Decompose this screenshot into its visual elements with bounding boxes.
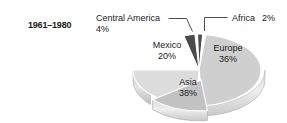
slice-label-asia-value: 38% (179, 88, 197, 98)
callout-label-africa-value: 2% (262, 13, 275, 23)
leader-line-africa (205, 18, 228, 32)
callout-label-central-america-value: 4% (96, 24, 109, 34)
chart-figure: 1961–1980 (0, 0, 287, 123)
slice-label-mexico-name: Mexico (153, 40, 182, 50)
leader-lines (169, 18, 228, 32)
callout-labels: Central America 4% Africa 2% (96, 13, 275, 34)
pie-chart: Mexico 20% Europe 36% Asia 38% Central A… (0, 0, 287, 123)
slice-label-asia-name: Asia (179, 77, 197, 87)
pie-slice-central-america (184, 34, 199, 70)
slice-label-mexico-value: 20% (158, 51, 176, 61)
slice-label-europe-value: 36% (219, 54, 237, 64)
slice-label-europe-name: Europe (213, 43, 242, 53)
callout-label-africa: Africa (232, 13, 255, 23)
leader-line-central-america (169, 19, 193, 32)
callout-label-central-america: Central America (96, 13, 160, 23)
